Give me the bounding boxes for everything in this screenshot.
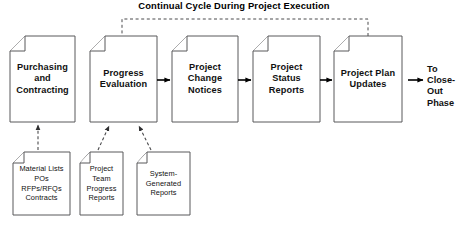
terminal-label-line: To	[427, 64, 468, 75]
document-shape-progress-evaluation	[90, 36, 157, 122]
document-shape-purchasing-and-contracting	[10, 36, 75, 122]
document-shape-project-plan-updates	[334, 36, 402, 122]
terminal-label-line: Close-Out	[427, 75, 468, 97]
input-arrow-team-reports-to-progress-evaluation	[98, 126, 109, 150]
document-shape-project-team-progress-reports	[80, 152, 123, 215]
terminal-label-line: Phase	[427, 98, 468, 109]
input-arrow-system-reports-to-progress-evaluation	[139, 126, 151, 150]
feedback-loop-path	[122, 19, 368, 36]
document-shape-project-status-reports	[253, 36, 320, 122]
document-shape-system-generated-reports	[137, 152, 190, 215]
document-shape-project-change-notices	[172, 36, 238, 122]
document-shape-procurement-documents	[13, 152, 70, 215]
process-flow-diagram: Continual Cycle During Project Execution	[0, 0, 468, 227]
terminal-label-to-close-out-phase: To Close-Out Phase	[427, 64, 468, 109]
diagram-canvas	[0, 0, 468, 227]
